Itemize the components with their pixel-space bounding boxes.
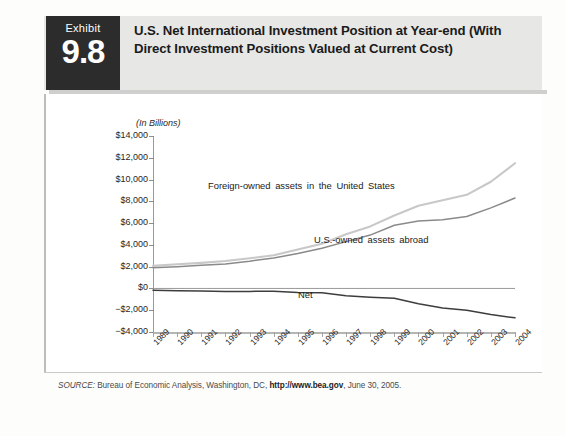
source-text-before: Bureau of Economic Analysis, Washington,…	[95, 381, 269, 390]
source-note: SOURCE: Bureau of Economic Analysis, Was…	[58, 381, 528, 390]
exhibit-title: U.S. Net International Investment Positi…	[134, 22, 532, 59]
series-line-net	[153, 290, 515, 317]
exhibit-number-block: Exhibit 9.8	[46, 16, 120, 90]
source-url[interactable]: http://www.bea.gov	[269, 381, 343, 390]
plot-area	[46, 100, 542, 368]
series-annotation-us-owned: U.S.-owned assets abroad	[314, 234, 428, 245]
exhibit-page: Exhibit 9.8 U.S. Net International Inves…	[0, 0, 566, 436]
source-divider	[44, 372, 542, 373]
source-text-after: , June 30, 2005.	[343, 381, 401, 390]
line-chart: (In Billions) $14,000$12,000$10,000$8,00…	[46, 100, 542, 368]
exhibit-number: 9.8	[46, 35, 120, 68]
series-line-foreign-owned-assets	[153, 163, 515, 266]
series-annotation-net: Net	[298, 289, 313, 300]
series-annotation-foreign-owned: Foreign-owned assets in the United State…	[208, 180, 395, 191]
source-label: SOURCE:	[58, 381, 95, 390]
series-line-us-owned-assets	[153, 198, 515, 268]
